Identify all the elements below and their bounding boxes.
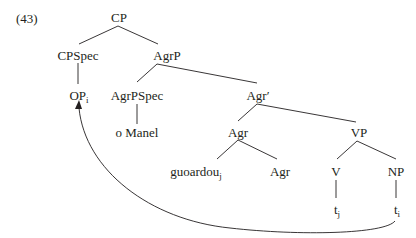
node-o-manel: o Manel <box>116 126 159 140</box>
node-agrp: AgrP <box>153 49 180 63</box>
node-cp: CP <box>111 11 127 25</box>
node-agr: Agr <box>228 126 248 140</box>
node-agr-head: Agr <box>270 165 290 179</box>
node-vp: VP <box>351 126 368 140</box>
tree-branches <box>0 0 416 238</box>
node-cpspec: CPSpec <box>57 49 98 63</box>
node-guoardou: guoardouj <box>170 165 222 179</box>
node-agr-bar: Agr′ <box>246 89 269 103</box>
index-j: j <box>219 171 222 181</box>
node-np: NP <box>388 165 405 179</box>
node-agrpspec: AgrPSpec <box>111 89 164 103</box>
node-trace-i: ti <box>394 203 400 217</box>
node-guoardou-label: guoardou <box>170 164 219 179</box>
index-i: i <box>86 95 89 105</box>
index-j: j <box>338 209 341 219</box>
node-op-label: OP <box>69 88 86 103</box>
index-i: i <box>398 209 401 219</box>
node-v: V <box>331 165 340 179</box>
node-trace-j: tj <box>334 203 340 217</box>
node-op: OPi <box>69 89 88 103</box>
